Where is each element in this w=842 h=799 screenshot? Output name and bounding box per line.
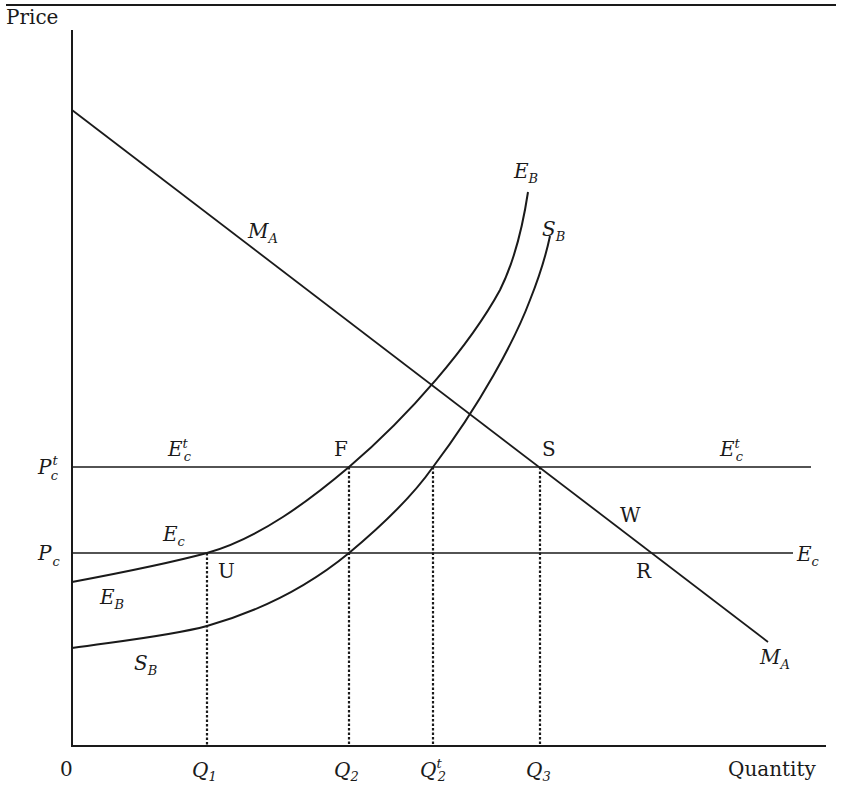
y-axis-title: Price [6,5,58,29]
x-axis-title: Quantity [728,757,817,781]
sb-label-left: SB [134,651,157,678]
sb-curve [72,236,550,648]
pct-tick-label: Ptc [37,453,59,483]
ma-label-lower: MA [759,645,790,672]
q2t-tick-label: Qt2 [420,756,446,784]
pc-tick-label: Pc [37,541,60,569]
ma-label-upper: MA [247,219,278,246]
point-s-label: S [542,437,556,461]
point-f-label: F [334,437,348,461]
sb-label-top: SB [542,217,565,244]
point-r-label: R [636,559,652,583]
ect-label-right: Etc [719,436,744,464]
eb-label-top: EB [513,159,538,186]
q3-tick-label: Q3 [526,758,551,784]
point-u-label: U [218,559,235,583]
eb-label-left: EB [99,585,124,612]
q2-tick-label: Q2 [334,758,359,784]
ec-label-right: Ec [796,542,820,569]
ect-label-left: Etc [167,436,192,464]
point-w-label: W [620,503,641,527]
q1-tick-label: Q1 [192,758,217,784]
origin-label: 0 [60,757,73,781]
supply-demand-diagram: Price Quantity 0 Ptc Pc Q1 Q2 Qt2 Q3 MA … [0,0,842,799]
eb-curve [72,192,528,582]
ma-curve [72,110,768,642]
ec-label-left: Ec [162,522,186,549]
